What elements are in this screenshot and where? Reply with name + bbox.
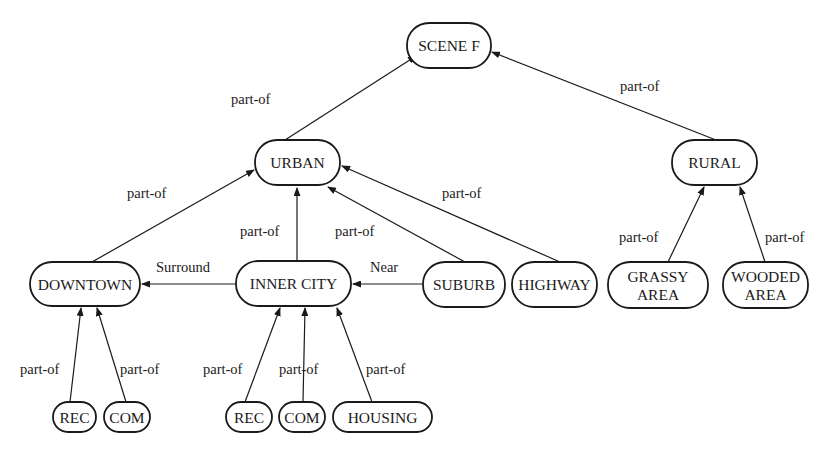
node-label: COM bbox=[109, 409, 145, 426]
node-rec1: REC bbox=[53, 402, 96, 432]
node-highway: HIGHWAY bbox=[512, 262, 597, 307]
node-label: RURAL bbox=[688, 154, 741, 171]
arrow-icon bbox=[492, 52, 716, 140]
edge-housing-to-inner_city: part-of bbox=[337, 308, 406, 402]
arrow-icon bbox=[245, 308, 280, 402]
edge-com2-to-inner_city: part-of bbox=[279, 308, 319, 402]
arrow-icon bbox=[285, 56, 416, 140]
edge-label: part-of bbox=[279, 361, 319, 377]
edge-label: part-of bbox=[620, 78, 660, 94]
node-suburb: SUBURB bbox=[423, 262, 505, 307]
edge-label: Near bbox=[370, 259, 398, 275]
edge-label: part-of bbox=[765, 229, 805, 245]
node-label: REC bbox=[234, 409, 264, 426]
node-label: HOUSING bbox=[348, 409, 418, 426]
node-housing: HOUSING bbox=[333, 402, 432, 432]
node-label: AREA bbox=[744, 286, 787, 303]
edge-label: part-of bbox=[203, 361, 243, 377]
edge-urban-to-scene_f: part-of bbox=[231, 56, 416, 140]
edge-rec1-to-downtown: part-of bbox=[20, 308, 81, 402]
node-grassy: GRASSYAREA bbox=[608, 262, 708, 308]
node-label: AREA bbox=[637, 286, 680, 303]
edges-layer: part-ofpart-ofpart-ofpart-ofpart-ofpart-… bbox=[20, 52, 805, 402]
edge-label: part-of bbox=[442, 185, 482, 201]
edge-label: part-of bbox=[20, 361, 60, 377]
node-inner_city: INNER CITY bbox=[236, 261, 351, 306]
node-label: URBAN bbox=[270, 154, 324, 171]
node-rural: RURAL bbox=[672, 140, 757, 185]
edge-rural-to-scene_f: part-of bbox=[492, 52, 716, 140]
node-label: WOODED bbox=[731, 268, 800, 285]
edge-downtown-to-urban: part-of bbox=[92, 170, 254, 262]
node-downtown: DOWNTOWN bbox=[30, 262, 140, 306]
edge-label: part-of bbox=[231, 91, 271, 107]
edge-com1-to-downtown: part-of bbox=[97, 308, 160, 402]
node-label: HIGHWAY bbox=[518, 276, 591, 293]
edge-suburb-to-inner_city: Near bbox=[353, 259, 423, 284]
node-label: SCENE F bbox=[418, 37, 480, 54]
edge-rec2-to-inner_city: part-of bbox=[203, 308, 280, 402]
arrow-icon bbox=[740, 187, 765, 262]
arrow-icon bbox=[303, 308, 305, 402]
arrow-icon bbox=[92, 170, 254, 262]
node-com2: COM bbox=[279, 402, 325, 432]
semantic-network-diagram: part-ofpart-ofpart-ofpart-ofpart-ofpart-… bbox=[0, 0, 833, 461]
node-scene_f: SCENE F bbox=[407, 23, 491, 68]
edge-inner_city-to-downtown: Surround bbox=[142, 259, 236, 284]
arrow-icon bbox=[668, 187, 704, 262]
edge-label: part-of bbox=[127, 185, 167, 201]
edge-label: part-of bbox=[335, 223, 375, 239]
edge-label: part-of bbox=[120, 361, 160, 377]
arrow-icon bbox=[342, 166, 560, 262]
edge-highway-to-urban: part-of bbox=[342, 166, 560, 262]
edge-grassy-to-rural: part-of bbox=[619, 187, 704, 262]
edge-wooded-to-rural: part-of bbox=[740, 187, 805, 262]
edge-label: part-of bbox=[366, 361, 406, 377]
arrow-icon bbox=[70, 308, 81, 402]
edge-label: part-of bbox=[619, 229, 659, 245]
node-label: SUBURB bbox=[433, 276, 495, 293]
node-label: REC bbox=[59, 409, 89, 426]
node-rec2: REC bbox=[226, 402, 272, 432]
edge-label: part-of bbox=[240, 223, 280, 239]
edge-label: Surround bbox=[156, 259, 211, 275]
node-label: COM bbox=[284, 409, 320, 426]
node-label: DOWNTOWN bbox=[38, 276, 132, 293]
node-com1: COM bbox=[104, 402, 150, 432]
node-label: GRASSY bbox=[627, 268, 688, 285]
node-urban: URBAN bbox=[255, 140, 340, 185]
arrow-icon bbox=[97, 308, 126, 402]
node-wooded: WOODEDAREA bbox=[723, 262, 808, 308]
arrow-icon bbox=[337, 308, 372, 402]
edge-inner_city-to-urban: part-of bbox=[240, 188, 297, 261]
node-label: INNER CITY bbox=[250, 275, 337, 292]
